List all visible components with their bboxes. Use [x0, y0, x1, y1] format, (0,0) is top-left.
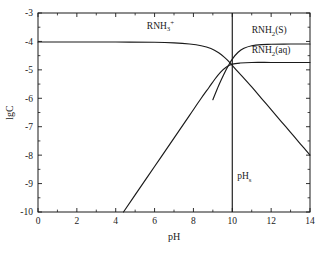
y-tick-label: -10: [20, 207, 33, 217]
y-tick-label: -4: [25, 37, 33, 47]
y-tick-label: -6: [25, 94, 33, 104]
label-rnh3-: RNH3+: [147, 19, 174, 31]
y-tick-label: -5: [25, 65, 33, 75]
x-axis-title: pH: [168, 231, 180, 242]
x-tick-label: 6: [152, 216, 157, 226]
y-tick-label: -7: [25, 122, 33, 132]
y-tick-label: -8: [25, 151, 33, 161]
x-tick-label: 12: [266, 216, 276, 226]
y-tick-label: -9: [25, 179, 33, 189]
x-tick-label: 8: [191, 216, 196, 226]
y-axis-title: lgC: [4, 105, 15, 120]
x-tick-label: 10: [228, 216, 238, 226]
label-rnh2-s-: RNH2(S): [252, 25, 287, 36]
label-rnh2-aq-: RNH2(aq): [252, 45, 291, 56]
chart-figure: 02468101214 -3-4-5-6-7-8-9-10 pHs RNH3+R…: [0, 0, 324, 258]
x-tick-label: 2: [74, 216, 79, 226]
x-tick-label: 0: [36, 216, 41, 226]
x-tick-label: 14: [305, 216, 315, 226]
y-tick-label: -3: [25, 8, 33, 18]
chart-plot-area: 02468101214 -3-4-5-6-7-8-9-10 pHs RNH3+R…: [0, 0, 324, 258]
x-tick-label: 4: [113, 216, 118, 226]
